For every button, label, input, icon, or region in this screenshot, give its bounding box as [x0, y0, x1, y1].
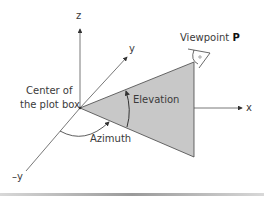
- viewpoint-letter: P: [232, 32, 239, 43]
- center-label-line2: the plot box: [20, 100, 80, 110]
- y-axis-label: y: [129, 44, 135, 54]
- elevation-label: Elevation: [133, 95, 179, 105]
- neg-y-axis-label: –y: [12, 172, 23, 182]
- bottom-divider: [0, 193, 264, 196]
- center-label-line1: Center of: [26, 86, 72, 96]
- viewpoint-label-text: Viewpoint: [180, 32, 232, 43]
- azimuth-label: Azimuth: [90, 134, 131, 144]
- neg-y-axis: [26, 108, 80, 171]
- z-axis-label: z: [76, 11, 81, 21]
- x-axis-label: x: [246, 103, 252, 113]
- viewpoint-label: Viewpoint P: [180, 33, 240, 43]
